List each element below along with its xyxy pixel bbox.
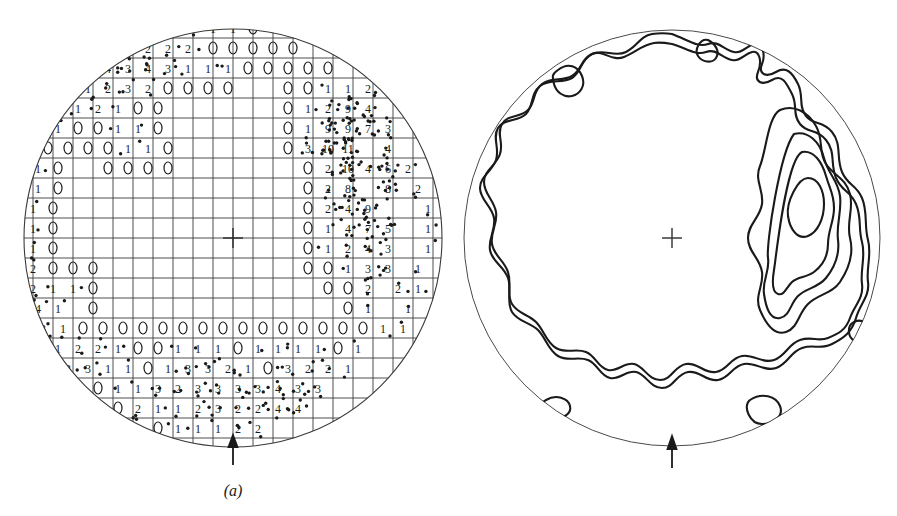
pole-point (354, 189, 357, 192)
zero-count-ellipse (284, 62, 292, 74)
grid-count-label: 1 (325, 222, 331, 236)
pole-point (170, 345, 173, 348)
pole-point (286, 346, 289, 349)
grid-count-label: 2 (255, 402, 261, 416)
pole-point (391, 175, 394, 178)
contour-level-3 (748, 108, 851, 333)
pole-point (292, 411, 295, 414)
zero-count-ellipse (284, 82, 292, 94)
pole-point (215, 383, 218, 386)
pole-point (275, 416, 278, 419)
pole-point (384, 189, 387, 192)
pole-point (373, 219, 376, 222)
grid-count-label: 1 (345, 82, 351, 96)
grid-count-label: 2 (325, 182, 331, 196)
grid-count-label: 1 (55, 302, 61, 316)
pole-point (386, 168, 389, 171)
pole-point (144, 68, 147, 71)
pole-point (377, 129, 380, 132)
pole-point (378, 168, 381, 171)
pole-point (148, 57, 151, 60)
pole-point (175, 370, 178, 373)
pole-point (158, 387, 161, 390)
grid-count-label: 1 (165, 362, 171, 376)
pole-point (30, 256, 33, 259)
pole-point (177, 45, 180, 48)
pole-point (424, 290, 427, 293)
grid-count-label: 3 (125, 62, 131, 76)
pole-point (45, 300, 48, 303)
pole-point (333, 127, 336, 130)
pole-point (350, 168, 353, 171)
pole-point (384, 238, 387, 241)
pole-point (202, 400, 205, 403)
zero-count-ellipse (94, 402, 102, 414)
grid-count-label: 2 (325, 162, 331, 176)
grid-count-label: 7 (365, 122, 371, 136)
pole-point (334, 208, 337, 211)
grid-count-label: 1 (345, 262, 351, 276)
pole-point (328, 148, 331, 151)
pole-point (118, 90, 121, 93)
pole-point (348, 195, 351, 198)
pole-point (351, 161, 354, 164)
pole-point (164, 406, 167, 409)
zero-count-ellipse (64, 142, 72, 154)
pole-point (388, 334, 391, 337)
pole-point (327, 189, 330, 192)
pole-point (207, 365, 210, 368)
pole-point (234, 406, 237, 409)
pole-point (407, 305, 410, 308)
panel-b-contour-diagram: (b) (450, 0, 897, 516)
zero-count-ellipse (234, 342, 242, 354)
grid-count-label: 1 (105, 362, 111, 376)
pole-point (369, 165, 372, 168)
pole-point (90, 107, 93, 110)
contour-loop-right-edge (849, 321, 870, 342)
pole-point (76, 368, 79, 371)
pole-point (174, 65, 177, 68)
grid-count-label: 2 (195, 402, 201, 416)
pole-point (362, 212, 365, 215)
grid-count-label: 2 (415, 182, 421, 196)
zero-count-ellipse (344, 302, 352, 314)
pole-point (371, 235, 374, 238)
pole-point (367, 221, 370, 224)
grid-count-label: 1 (195, 422, 201, 436)
pole-point (321, 149, 324, 152)
grid-count-label: 1 (135, 382, 141, 396)
pole-point (35, 200, 38, 203)
pole-point (336, 108, 339, 111)
pole-point (327, 140, 330, 143)
zero-count-ellipse (299, 322, 307, 334)
pole-point (353, 118, 356, 121)
pole-point (301, 382, 304, 385)
pole-point (253, 385, 256, 388)
pole-point (154, 394, 157, 397)
grid-count-label: 1 (305, 102, 311, 116)
pole-point (353, 107, 356, 110)
pole-point (328, 367, 331, 370)
pole-point (184, 366, 187, 369)
pole-point (266, 386, 269, 389)
pole-point (247, 407, 250, 410)
zero-count-ellipse (164, 82, 172, 94)
grid-count-label: 1 (270, 22, 276, 36)
zero-count-ellipse (119, 322, 127, 334)
pole-point (324, 196, 327, 199)
grid-count-label: 1 (245, 362, 251, 376)
pole-point (385, 156, 388, 159)
zero-count-ellipse (334, 342, 342, 354)
pole-point (342, 119, 345, 122)
pole-point (99, 337, 102, 340)
pole-point (241, 396, 244, 399)
pole-point (204, 362, 207, 365)
pole-point (282, 397, 285, 400)
zero-count-ellipse (304, 222, 312, 234)
grid-count-label: 1 (50, 282, 56, 296)
pole-point (119, 152, 122, 155)
pole-point (247, 391, 250, 394)
pole-point (356, 127, 359, 130)
grid-count-label: 2 (405, 162, 411, 176)
grid-count-label: 2 (170, 22, 176, 36)
